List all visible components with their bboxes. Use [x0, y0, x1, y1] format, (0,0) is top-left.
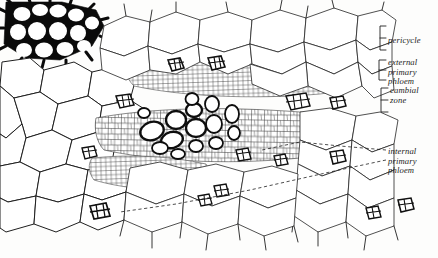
figure-stem-cross-section: .w { fill:#ffffff; stroke:#1f1f1f; strok… — [0, 0, 438, 258]
label-internal-primary-phloem: internal primary phloem — [388, 147, 417, 176]
label-cambial-zone: cambial zone — [390, 86, 419, 105]
label-line: zone — [390, 96, 419, 106]
label-pericycle: pericycle — [388, 36, 421, 46]
label-line: phloem — [388, 166, 417, 176]
label-external-primary-phloem: external primary phloem — [388, 58, 417, 87]
cross-section-drawing: .w { fill:#ffffff; stroke:#1f1f1f; strok… — [0, 0, 438, 258]
